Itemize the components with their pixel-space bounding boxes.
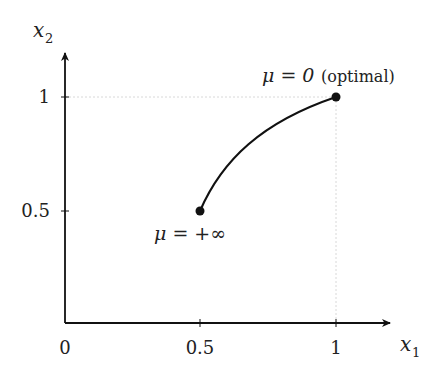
svg-text:(optimal): (optimal) [321, 67, 395, 86]
central-path-curve [200, 97, 336, 211]
svg-text:μ = 0: μ = 0 [262, 64, 314, 86]
x-tick-label-0: 0 [59, 337, 70, 358]
optimal-point [332, 93, 341, 102]
x-tick-label-0.5: 0.5 [186, 337, 215, 358]
svg-text:1: 1 [412, 345, 420, 360]
y-tick-label-0.5: 0.5 [21, 200, 50, 221]
start-annotation: μ = +∞ [154, 222, 226, 244]
x-axis-label: x 1 [400, 332, 420, 360]
chart: 0 0.5 1 0.5 1 x 1 x 2 μ = 0 (optimal) μ … [0, 0, 441, 374]
optimal-annotation: μ = 0 (optimal) [262, 64, 395, 86]
y-tick-label-1: 1 [39, 86, 50, 107]
start-point [196, 207, 205, 216]
x-tick-label-1: 1 [330, 337, 341, 358]
svg-text:x: x [33, 18, 44, 42]
svg-text:2: 2 [45, 31, 53, 46]
y-axis-label: x 2 [33, 18, 53, 46]
svg-text:x: x [400, 332, 411, 356]
